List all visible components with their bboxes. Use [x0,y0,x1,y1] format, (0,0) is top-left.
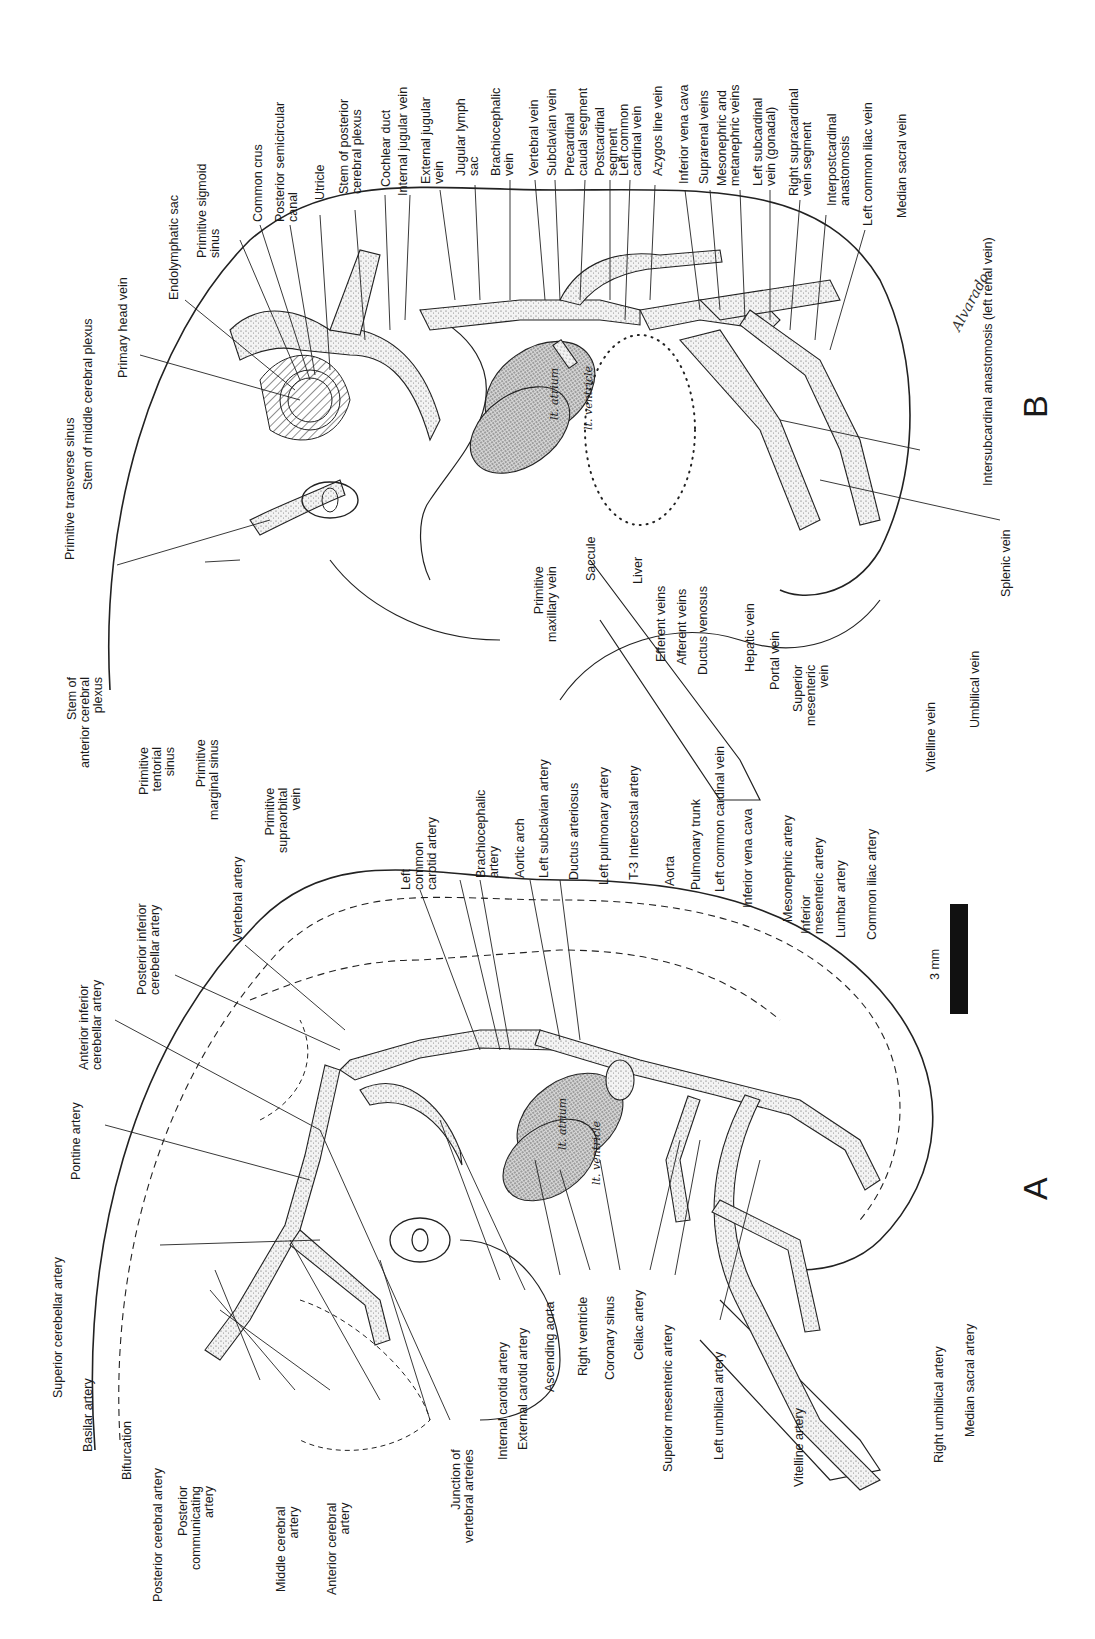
label-junction-vertebral-arteries: Junction of vertebral arteries [450,1449,476,1543]
label-superior-cerebellar-artery: Superior cerebellar artery [52,1257,65,1398]
label-inferior-mesenteric-artery: Inferior mesenteric artery [800,837,826,934]
label-suprarenal-veins: Suprarenal veins [698,90,711,184]
label-anterior-cerebral-artery: Anterior cerebral artery [326,1503,352,1595]
label-vertebral-vein: Vertebral vein [528,100,541,176]
panel-b-liver-outline [585,335,695,525]
label-left-pulmonary-artery: Left pulmonary artery [598,767,611,885]
label-azygos-line-vein: Azygos line vein [652,86,665,176]
label-stem-posterior-cerebral-plexus: Stem of posterior cerebral plexus [338,99,364,194]
label-left-common-carotid-artery: Left common carotid artery [400,817,439,890]
label-bifurcation: Bifurcation [121,1421,134,1480]
panel-a-letter: A [1018,1177,1052,1200]
label-lumbar-artery: Lumbar artery [835,860,848,938]
label-heart-atrium-a: lt. atrium [556,1098,569,1150]
label-vitelline-artery: Vitelline artery [793,1408,806,1487]
label-portal-vein: Portal vein [769,631,782,690]
label-internal-carotid-artery: Internal carotid artery [497,1342,510,1460]
label-primitive-tentorial-sinus: Primitive tentorial sinus [138,747,177,795]
label-posterior-semicircular-canal: Posterior semicircular canal [274,102,300,222]
label-right-supracardinal-vein: Right supracardinal vein segment [788,88,814,196]
label-left-umbilical-artery: Left umbilical artery [713,1352,726,1460]
label-pulmonary-trunk: Pulmonary trunk [690,799,703,890]
label-jugular-lymph-sac: Jugular lymph sac [455,98,481,176]
label-posterior-inferior-cerebellar-artery: Posterior inferior cerebellar artery [136,903,162,995]
label-pontine-artery: Pontine artery [70,1102,83,1180]
label-left-subcardinal-vein: Left subcardinal vein (gonadal) [752,98,778,186]
label-liver: Liver [632,557,645,584]
label-primary-head-vein: Primary head vein [117,277,130,378]
label-coronary-sinus: Coronary sinus [604,1296,617,1380]
label-anterior-inferior-cerebellar-artery: Anterior inferior cerebellar artery [78,980,104,1070]
label-brachiocephalic-artery: Brachiocephalic artery [475,790,501,878]
label-superior-mesenteric-vein: Superior mesenteric vein [792,665,831,726]
label-t3-intercostal-artery: T-3 Intercostal artery [628,765,641,880]
label-superior-mesenteric-artery: Superior mesenteric artery [662,1325,675,1472]
label-efferent-veins: Efferent veins [655,586,668,662]
scale-bar [950,904,968,1014]
label-right-umbilical-artery: Right umbilical artery [933,1346,946,1463]
label-aorta: Aorta [664,856,677,886]
label-interpostcardinal-anastomosis: Interpostcardinal anastomosis [826,114,852,206]
label-mesonephric-metanephric-veins: Mesonephric and metanephric veins [716,85,742,186]
label-mesonephric-artery: Mesonephric artery [782,815,795,922]
label-left-subclavian-artery: Left subclavian artery [538,759,551,878]
label-external-carotid-artery: External carotid artery [517,1328,530,1450]
label-primitive-supraorbital-vein: Primitive supraorbital vein [264,788,303,853]
label-subclavian-vein: Subclavian vein [546,88,559,176]
label-inferior-vena-cava-b: Inferior vena cava [678,85,691,184]
label-heart-atrium-b: lt. atrium [548,368,561,420]
label-heart-ventricle-a: lt. ventricle [590,1121,603,1185]
panel-b-letter: B [1018,395,1052,418]
label-left-common-cardinal-vein: Left common cardinal vein [618,104,644,176]
label-inferior-vena-cava-a: Inferior vena cava [742,809,755,908]
label-endolymphatic-sac: Endolymphatic sac [168,195,181,300]
label-median-sacral-vein: Median sacral vein [896,114,909,218]
label-middle-cerebral-artery: Middle cerebral artery [275,1507,301,1592]
label-celiac-artery: Celiac artery [633,1290,646,1360]
label-primitive-sigmoid-sinus: Primitive sigmoid sinus [196,164,222,258]
label-heart-ventricle-b: lt. ventricle [582,366,595,430]
embryo-vascular-figure: Primitive transverse sinus Stem of middl… [0,0,1095,1639]
label-external-jugular-vein: External jugular vein [420,97,446,184]
label-primitive-maxillary-vein: Primitive maxillary vein [533,566,559,642]
scale-bar-label: 3 mm [928,949,942,980]
label-cochlear-duct: Cochlear duct [380,110,393,187]
label-precardinal-caudal-segment: Precardinal caudal segment [564,88,590,176]
label-ductus-arteriosus: Ductus arteriosus [568,783,581,880]
label-vitelline-vein: Vitelline vein [925,702,938,772]
label-primitive-marginal-sinus: Primitive marginal sinus [195,739,221,820]
label-left-common-iliac-vein: Left common iliac vein [862,102,875,226]
label-hepatic-vein: Hepatic vein [744,603,757,672]
label-primitive-transverse-sinus: Primitive transverse sinus [64,418,77,560]
label-stem-middle-cerebral-plexus: Stem of middle cerebral plexus [82,318,95,490]
label-ascending-aorta: Ascending aorta [544,1302,557,1392]
label-common-crus: Common crus [252,144,265,222]
label-right-ventricle: Right ventricle [577,1297,590,1376]
label-vertebral-artery: Vertebral artery [232,857,245,942]
label-internal-jugular-vein: Internal jugular vein [397,87,410,196]
label-ductus-venosus: Ductus venosus [697,586,710,675]
panel-a-eye [390,1218,450,1262]
label-left-common-cardinal-vein-a: Left common cardinal vein [714,746,727,892]
label-basilar-artery: Basilar artery [82,1378,95,1452]
label-posterior-communicating-artery: Posterior communicating artery [177,1486,216,1570]
label-common-iliac-artery: Common iliac artery [866,829,879,940]
label-afferent-veins: Afferent veins [676,589,689,665]
label-splenic-vein: Splenic vein [1000,530,1013,597]
label-aortic-arch: Aortic arch [514,818,527,878]
label-posterior-cerebral-artery: Posterior cerebral artery [152,1468,165,1602]
label-median-sacral-artery: Median sacral artery [964,1324,977,1437]
label-stem-anterior-cerebral-plexus: Stem of anterior cerebral plexus [66,677,105,768]
label-brachiocephalic-vein: Brachiocephalic vein [490,88,516,176]
label-saccule: Saccule [585,537,598,581]
label-utricle: Utricle [314,165,327,200]
label-umbilical-vein: Umbilical vein [969,651,982,728]
